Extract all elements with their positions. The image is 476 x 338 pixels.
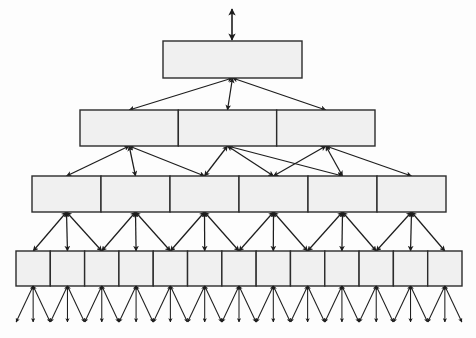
edge-connector xyxy=(233,78,326,110)
leaf-terminal-arrow xyxy=(50,286,67,322)
leaf-terminal-arrow xyxy=(325,286,342,322)
edge-connector xyxy=(67,212,102,251)
leaf-terminal-arrow xyxy=(394,286,411,322)
leaf-terminal-arrow xyxy=(308,286,325,322)
edge-connector xyxy=(33,212,66,251)
node-cell-l3-2[interactable] xyxy=(101,176,170,212)
leaf-terminal-arrow xyxy=(342,286,359,322)
node-row-1 xyxy=(163,41,302,78)
leaf-terminal-arrow xyxy=(85,286,102,322)
edge-connector xyxy=(129,146,204,176)
edge-connector xyxy=(239,212,274,251)
node-cell-l4-12[interactable] xyxy=(393,251,427,286)
leaf-terminal-arrow xyxy=(256,286,273,322)
edge-connector xyxy=(411,212,412,251)
edge-connector xyxy=(308,212,343,251)
leaf-terminal-arrow xyxy=(67,286,84,322)
node-cell-l4-3[interactable] xyxy=(85,251,119,286)
node-cell-l4-10[interactable] xyxy=(325,251,359,286)
node-cell-l4-2[interactable] xyxy=(50,251,84,286)
edge-connector xyxy=(228,78,233,110)
leaf-terminal-arrow xyxy=(170,286,187,322)
edge-connector xyxy=(228,146,343,176)
leaf-terminal-arrow xyxy=(411,286,428,322)
leaf-terminal-arrow xyxy=(239,286,256,322)
node-cell-l4-1[interactable] xyxy=(16,251,50,286)
edge-connector xyxy=(136,212,137,251)
leaf-terminal-arrow xyxy=(428,286,445,322)
edge-connector xyxy=(102,212,136,251)
edge-connector xyxy=(205,212,240,251)
node-row-3 xyxy=(32,176,446,212)
edges-layer xyxy=(33,78,445,251)
node-cell-l4-6[interactable] xyxy=(188,251,222,286)
edge-connector xyxy=(170,212,204,251)
node-row-2 xyxy=(80,110,375,146)
edge-connector xyxy=(129,146,135,176)
edge-connector xyxy=(376,212,411,251)
leaf-terminal-arrow xyxy=(222,286,239,322)
edge-connector xyxy=(136,212,171,251)
edge-connector xyxy=(205,146,228,176)
node-cell-l4-8[interactable] xyxy=(256,251,290,286)
edge-connector xyxy=(342,212,343,251)
node-cell-l4-13[interactable] xyxy=(428,251,462,286)
leaf-terminal-arrow xyxy=(153,286,170,322)
edge-connector xyxy=(274,212,308,251)
edge-connector xyxy=(274,146,326,176)
edge-connector xyxy=(67,146,130,176)
leaf-terminal-arrow xyxy=(188,286,205,322)
leaf-terminal-arrow xyxy=(205,286,222,322)
diagram-canvas xyxy=(0,0,476,338)
edge-connector xyxy=(326,146,412,176)
edge-connector xyxy=(67,212,68,251)
nodes-layer xyxy=(16,41,462,286)
leaf-terminal-arrow xyxy=(33,286,50,322)
node-cell-l3-6[interactable] xyxy=(377,176,446,212)
leaf-terminal-arrow xyxy=(136,286,153,322)
node-cell-l3-3[interactable] xyxy=(170,176,239,212)
node-cell-l4-5[interactable] xyxy=(153,251,187,286)
leaf-terminal-arrow xyxy=(16,286,33,322)
node-cell-l4-4[interactable] xyxy=(119,251,153,286)
node-cell-l2-1[interactable] xyxy=(80,110,178,146)
node-cell-l3-4[interactable] xyxy=(239,176,308,212)
leaf-terminal-arrow xyxy=(359,286,376,322)
leaf-terminal-arrow xyxy=(119,286,136,322)
leaf-terminal-arrow xyxy=(445,286,462,322)
node-cell-l3-5[interactable] xyxy=(308,176,377,212)
node-cell-l4-9[interactable] xyxy=(290,251,324,286)
leaf-terminal-arrow xyxy=(376,286,393,322)
node-cell-l1-1[interactable] xyxy=(163,41,302,78)
leaf-terminal-arrow xyxy=(291,286,308,322)
node-cell-l2-2[interactable] xyxy=(178,110,276,146)
node-cell-l4-11[interactable] xyxy=(359,251,393,286)
node-row-4 xyxy=(16,251,462,286)
tree-diagram-svg xyxy=(0,0,476,338)
leaf-fan-layer xyxy=(16,286,462,322)
node-cell-l3-1[interactable] xyxy=(32,176,101,212)
edge-connector xyxy=(343,212,377,251)
node-cell-l2-3[interactable] xyxy=(277,110,375,146)
leaf-terminal-arrow xyxy=(102,286,119,322)
node-cell-l4-7[interactable] xyxy=(222,251,256,286)
leaf-terminal-arrow xyxy=(273,286,290,322)
edge-connector xyxy=(412,212,445,251)
edge-connector xyxy=(228,146,274,176)
edge-connector xyxy=(129,78,232,110)
